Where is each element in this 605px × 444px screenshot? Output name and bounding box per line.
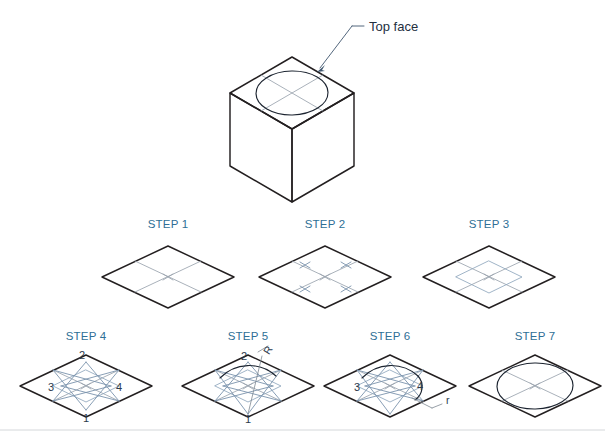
- step-4-label: STEP 4: [66, 330, 107, 342]
- step-4-center-cross: [81, 383, 91, 389]
- step-3-center-cross: [484, 274, 494, 280]
- step-4-diagram: 2 1 3 4 STEP 4: [20, 330, 152, 424]
- step-3-diagram: STEP 3: [423, 218, 555, 308]
- step-6-point-4-label: 4: [417, 380, 423, 392]
- step-4-point-3-label: 3: [48, 381, 54, 393]
- top-face-leader-diagonal: [320, 26, 352, 68]
- step-5-diagram: 2 1 R STEP 5: [182, 330, 314, 425]
- cube-left-face: [230, 93, 292, 202]
- step-1-label: STEP 1: [148, 218, 189, 230]
- step-5-label: STEP 5: [228, 330, 269, 342]
- figure-page: Top face STEP 1: [0, 0, 605, 444]
- step-2-diagram: STEP 2: [259, 218, 391, 308]
- step-5-radius-label: R: [261, 343, 275, 356]
- step-3-label: STEP 3: [469, 218, 510, 230]
- step-5-point-2-label: 2: [241, 350, 247, 362]
- step-2-label: STEP 2: [305, 218, 346, 230]
- step-2-center-cross: [320, 274, 330, 280]
- step-2-tick-lower-left: [300, 286, 310, 292]
- top-face-callout: Top face: [317, 19, 418, 72]
- step-6-point-3-label: 3: [354, 381, 360, 393]
- step-1-diagram: STEP 1: [102, 218, 234, 308]
- isometric-ellipse-construction-figure: Top face STEP 1: [0, 0, 605, 444]
- cube-right-face: [292, 93, 354, 202]
- step-7-diagram: STEP 7: [469, 330, 601, 417]
- step-6-radius-label: r: [446, 394, 450, 406]
- step-5-point-1-label: 1: [245, 413, 251, 425]
- step-6-diagram: 3 4 r STEP 6: [324, 330, 456, 417]
- step-4-point-2-label: 2: [79, 349, 85, 361]
- step-6-label: STEP 6: [370, 330, 411, 342]
- isometric-cube: [230, 57, 354, 202]
- step-1-center-cross: [163, 274, 173, 280]
- top-face-label: Top face: [369, 19, 418, 34]
- step-6-radius-leader-b: [432, 404, 442, 408]
- step-5-center-cross: [243, 383, 253, 389]
- step-6-center-cross: [385, 383, 395, 389]
- step-2-tick-lower-right: [341, 286, 351, 292]
- step-7-label: STEP 7: [515, 330, 556, 342]
- step-4-point-1-label: 1: [83, 412, 89, 424]
- step-4-point-4-label: 4: [116, 381, 122, 393]
- step-7-center-cross: [530, 383, 540, 389]
